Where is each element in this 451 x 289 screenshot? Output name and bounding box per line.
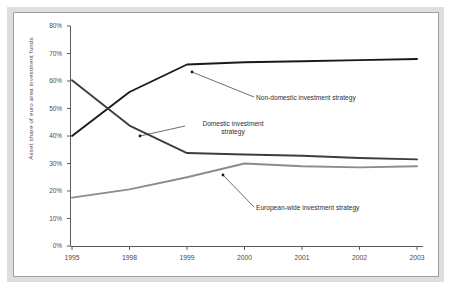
y-axis-tick-label: 40% (36, 132, 62, 139)
y-axis-tick-label: 30% (36, 160, 62, 167)
x-axis-tick-label: 2002 (340, 254, 380, 261)
annotation-line: Domestic investment (187, 120, 279, 128)
y-axis-title: Asset share of euro area investment fund… (27, 0, 34, 199)
y-axis-tick-label: 0% (36, 242, 62, 249)
x-axis-tick-label: 2003 (397, 254, 437, 261)
annotation-arrow-head (222, 174, 225, 177)
y-axis-tick-label: 10% (36, 215, 62, 222)
x-axis-ticks (72, 247, 417, 251)
series-line (72, 164, 417, 198)
x-axis-tick-label: 2001 (282, 254, 322, 261)
annotation-non-domestic-investment-strategy: Non-domestic investment strategy (256, 94, 356, 102)
annotation-arrow-head (139, 135, 142, 138)
annotation-leader-line (140, 126, 185, 136)
y-axis-ticks (67, 26, 71, 246)
x-axis-tick-label: 1995 (52, 254, 92, 261)
line-chart-plot (0, 0, 451, 289)
y-axis-tick-label: 50% (36, 105, 62, 112)
y-axis-tick-label: 20% (36, 187, 62, 194)
annotation-european-wide-investment-strategy: European-wide investment strategy (256, 204, 359, 212)
annotation-line: European-wide investment strategy (256, 204, 359, 212)
annotation-arrow-head (191, 71, 194, 74)
chart-page: Asset share of euro area investment fund… (0, 0, 451, 289)
annotation-line: strategy (187, 128, 279, 136)
x-axis-tick-label: 1999 (167, 254, 207, 261)
x-axis-tick-label: 2000 (225, 254, 265, 261)
annotation-domestic-investment-strategy: Domestic investment strategy (187, 120, 279, 137)
annotation-leader-line (192, 72, 254, 97)
y-axis-tick-label: 60% (36, 77, 62, 84)
y-axis-tick-label: 70% (36, 50, 62, 57)
x-axis-tick-label: 1998 (110, 254, 150, 261)
annotation-line: Non-domestic investment strategy (256, 94, 356, 102)
y-axis-tick-label: 80% (36, 22, 62, 29)
annotation-leader-line (223, 175, 254, 207)
